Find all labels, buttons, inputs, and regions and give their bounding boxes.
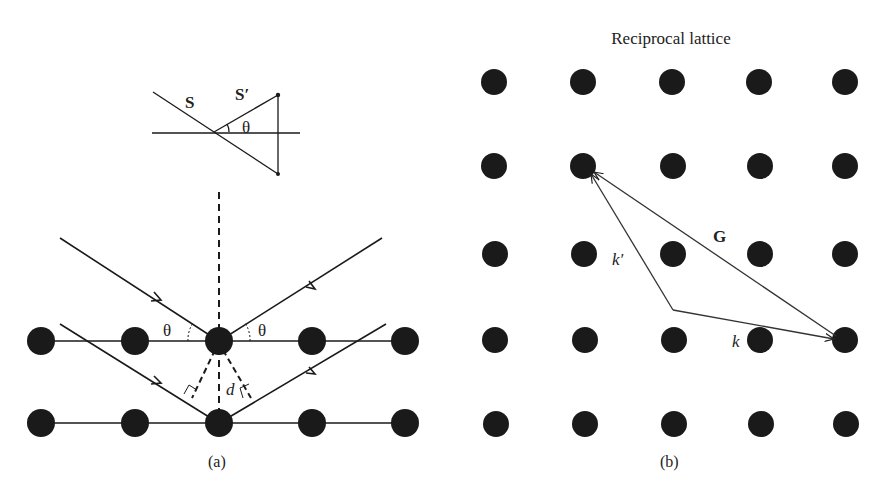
atom xyxy=(391,409,419,437)
label-G: G xyxy=(713,227,726,246)
inset-label-s-prime: S′ xyxy=(235,85,249,104)
arrow-icon xyxy=(151,376,161,384)
panel-a: S S′ θ θ xyxy=(27,85,419,471)
inset-point xyxy=(276,172,280,176)
label-k-prime: k′ xyxy=(612,250,624,269)
atom xyxy=(27,327,55,355)
right-angle-mark-right xyxy=(240,384,249,398)
atom xyxy=(298,327,326,355)
atom xyxy=(298,409,326,437)
angle-arc-left xyxy=(188,323,193,341)
label-k: k xyxy=(732,332,740,351)
vector-k-prime xyxy=(591,174,673,310)
angle-label-right: θ xyxy=(258,321,266,340)
diagram-canvas: S S′ θ θ xyxy=(0,0,892,497)
inset-extension xyxy=(214,132,278,174)
angle-arc-right xyxy=(245,323,250,341)
panel-b: Reciprocal lattice G k′ k (b) xyxy=(481,29,859,471)
inset-angle-arc xyxy=(227,124,229,132)
atom xyxy=(121,327,149,355)
angle-label-left: θ xyxy=(163,321,171,340)
vector-G xyxy=(594,172,836,336)
spacing-label-d: d xyxy=(226,380,235,399)
inset-incident-vector-s xyxy=(153,92,214,132)
reciprocal-lattice-points xyxy=(481,69,859,437)
path-difference-dash-left xyxy=(192,350,215,398)
atom xyxy=(121,409,149,437)
atom xyxy=(27,409,55,437)
inset-label-theta: θ xyxy=(242,118,250,137)
inset-point xyxy=(276,93,280,97)
panel-b-title: Reciprocal lattice xyxy=(611,29,730,48)
atom xyxy=(391,327,419,355)
reflected-ray-top xyxy=(221,238,382,340)
caption-a: (a) xyxy=(208,453,226,471)
caption-b: (b) xyxy=(660,453,679,471)
atom xyxy=(205,327,233,355)
incident-ray-top xyxy=(60,238,217,340)
inset-label-s: S xyxy=(185,93,194,112)
inset-vector-diagram xyxy=(152,92,300,174)
atom xyxy=(205,409,233,437)
